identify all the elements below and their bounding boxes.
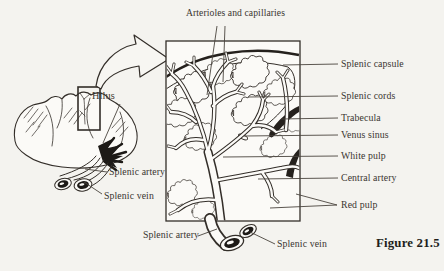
figure-caption: Figure 21.5 (376, 236, 440, 251)
hilus-label: Hilus (92, 91, 115, 102)
splenic-capsule-label: Splenic capsule (341, 59, 404, 69)
splenic-artery-label-overview: Splenic artery (109, 167, 165, 177)
figure-21-5-spleen-diagram: Arterioles and capillaries Hilus Splenic… (0, 0, 444, 271)
splenic-vein-label-overview: Splenic vein (104, 191, 154, 201)
trabecula-label: Trabecula (341, 113, 381, 123)
red-pulp-label: Red pulp (341, 200, 377, 210)
central-artery-label: Central artery (341, 173, 397, 183)
arterioles-capillaries-label: Arterioles and capillaries (186, 8, 285, 18)
splenic-cords-label: Splenic cords (341, 91, 395, 101)
splenic-artery-label-magnified: Splenic artery (143, 230, 199, 240)
venus-sinus-label: Venus sinus (341, 130, 389, 140)
splenic-vein-label-magnified: Splenic vein (277, 239, 327, 249)
white-pulp-label: White pulp (341, 151, 386, 161)
